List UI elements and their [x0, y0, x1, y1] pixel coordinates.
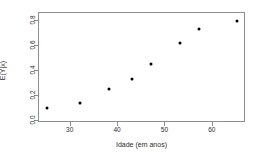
plot-data-area — [39, 13, 244, 121]
y-axis-tick-label: 0.8 — [30, 13, 37, 27]
data-point — [197, 28, 200, 31]
scatter-plot-figure: 304050600.00.20.40.60.8 Idade (em anos) … — [0, 0, 256, 157]
data-point — [235, 19, 238, 22]
data-point — [131, 78, 134, 81]
y-axis-tick-label: 0.0 — [30, 113, 37, 127]
x-axis-title: Idade (em anos) — [38, 141, 245, 148]
y-axis-tick-label: 0.6 — [30, 38, 37, 52]
y-axis-title: E(Y|x) — [0, 61, 6, 80]
y-axis-tick-label: 0.2 — [30, 88, 37, 102]
x-axis-tick-label: 50 — [161, 127, 168, 134]
data-point — [46, 107, 49, 110]
data-point — [79, 102, 82, 105]
x-axis-tick-label: 30 — [66, 127, 73, 134]
data-point — [107, 88, 110, 91]
y-axis-tick-label: 0.4 — [30, 63, 37, 77]
x-axis-tick-label: 60 — [208, 127, 215, 134]
data-point — [178, 42, 181, 45]
plot-frame — [38, 12, 245, 122]
x-axis-tick-label: 40 — [113, 127, 120, 134]
data-point — [150, 63, 153, 66]
